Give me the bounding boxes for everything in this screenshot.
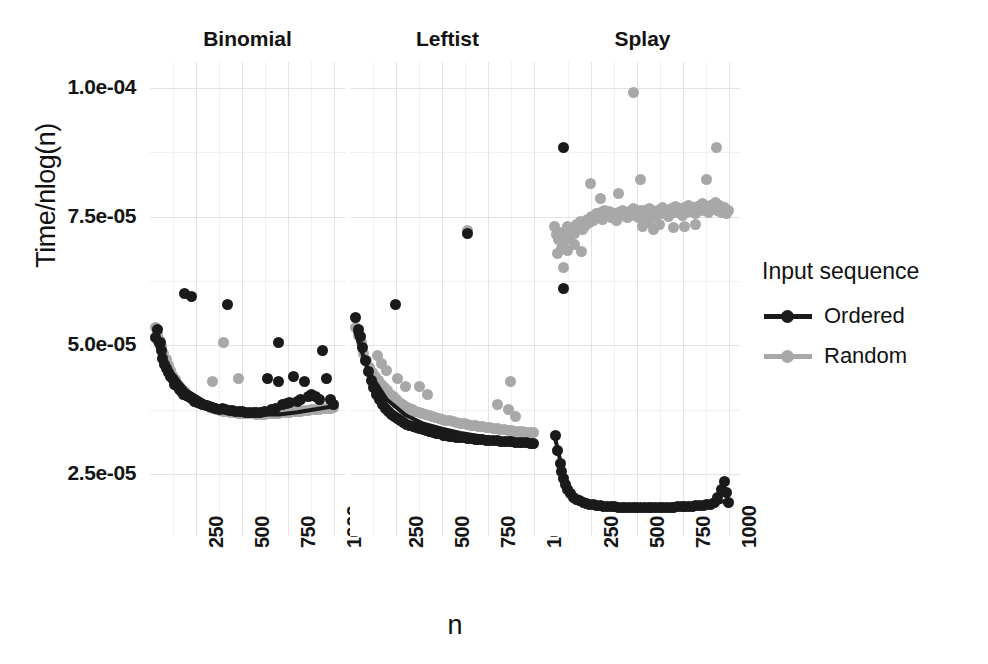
facet-panel-splay (545, 62, 740, 536)
x-tick-label: 1000 (738, 506, 761, 549)
x-tick-label: 250 (405, 516, 428, 548)
facet-panel-binomial (150, 62, 345, 536)
x-tick-label: 500 (451, 516, 474, 548)
y-tick-label: 2.5e-05 (20, 461, 136, 485)
x-axis-title: n (400, 610, 510, 641)
y-axis-tick-labels: 2.5e-055.0e-057.5e-051.0e-04 (0, 0, 136, 664)
legend-key-icon (762, 301, 814, 331)
legend-entry[interactable]: Ordered (762, 299, 972, 333)
x-tick-label: 750 (692, 516, 715, 548)
x-tick-label: 500 (646, 516, 669, 548)
legend-point-marker (781, 350, 794, 363)
smooth-fit-line (150, 62, 345, 536)
smooth-fit-line (350, 62, 545, 536)
plot-root: Time/nlog(n) n 2.5e-055.0e-057.5e-051.0e… (0, 0, 988, 664)
facet-strip-label: Leftist (350, 26, 545, 52)
legend-entries: OrderedRandom (762, 299, 972, 373)
smooth-fit-line (545, 62, 740, 536)
legend-title: Input sequence (762, 258, 972, 285)
x-tick-label: 250 (205, 516, 228, 548)
y-tick-label: 1.0e-04 (20, 75, 136, 99)
y-tick-label: 7.5e-05 (20, 204, 136, 228)
legend-key-icon (762, 341, 814, 371)
x-tick-label: 750 (497, 516, 520, 548)
facet-strip-label: Binomial (150, 26, 345, 52)
legend-label: Random (824, 343, 907, 369)
facet-panel-leftist (350, 62, 545, 536)
legend: Input sequence OrderedRandom (762, 258, 972, 379)
x-tick-label: 250 (600, 516, 623, 548)
facet-strip-label: Splay (545, 26, 740, 52)
y-tick-label: 5.0e-05 (20, 332, 136, 356)
legend-point-marker (781, 310, 794, 323)
legend-entry[interactable]: Random (762, 339, 972, 373)
x-tick-label: 500 (251, 516, 274, 548)
x-tick-label: 750 (297, 516, 320, 548)
legend-label: Ordered (824, 303, 905, 329)
